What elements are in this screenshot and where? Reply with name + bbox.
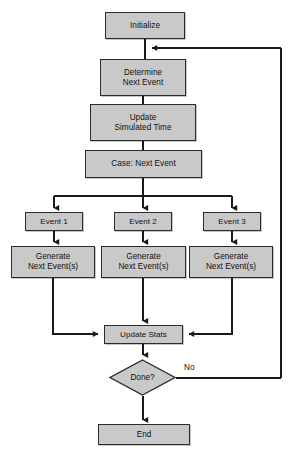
flowchart-canvas: Initialize Determine Next Event Update S… xyxy=(0,0,294,450)
node-determine-next-event[interactable]: Determine Next Event xyxy=(100,59,186,96)
node-end[interactable]: End xyxy=(98,424,190,445)
node-event-2[interactable]: Event 2 xyxy=(114,212,172,231)
wire-gen1-to-update-stats xyxy=(53,278,98,334)
node-generate-next-events-3[interactable]: Generate Next Event(s) xyxy=(189,246,273,278)
node-update-stats[interactable]: Update Stats xyxy=(104,325,183,344)
node-event-3[interactable]: Event 3 xyxy=(203,212,261,231)
node-generate-next-events-1[interactable]: Generate Next Event(s) xyxy=(11,246,95,278)
node-done-decision[interactable]: Done? xyxy=(109,359,176,396)
wire-gen3-to-update-stats xyxy=(189,278,232,334)
node-case-next-event[interactable]: Case: Next Event xyxy=(85,150,202,178)
node-generate-next-events-2[interactable]: Generate Next Event(s) xyxy=(101,246,186,278)
node-done-label: Done? xyxy=(130,373,154,382)
node-event-1[interactable]: Event 1 xyxy=(25,212,83,231)
node-initialize[interactable]: Initialize xyxy=(105,12,185,39)
node-update-simulated-time[interactable]: Update Simulated Time xyxy=(90,104,196,141)
edge-label-no: No xyxy=(184,363,194,372)
